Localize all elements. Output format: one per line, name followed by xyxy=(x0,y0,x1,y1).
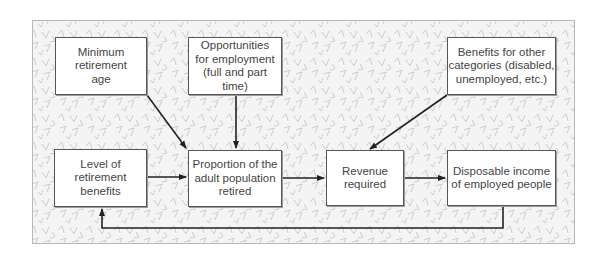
node-label: Disposable income of employed people xyxy=(451,165,551,192)
node-level-retirement-benefits: Level of retirement benefits xyxy=(54,149,147,207)
node-label: Opportunities for employment (full and p… xyxy=(189,39,281,93)
node-label: Benefits for other categories (disabled,… xyxy=(448,46,554,87)
node-label: Minimum retirement age xyxy=(75,46,127,87)
node-opportunities-employment: Opportunities for employment (full and p… xyxy=(188,37,282,95)
node-benefits-other-categories: Benefits for other categories (disabled,… xyxy=(447,37,556,95)
node-disposable-income: Disposable income of employed people xyxy=(447,150,556,206)
node-label: Level of retirement benefits xyxy=(75,158,127,199)
node-proportion-retired: Proportion of the adult population retir… xyxy=(188,150,282,207)
node-label: Proportion of the adult population retir… xyxy=(192,158,277,199)
node-revenue-required: Revenue required xyxy=(326,150,404,206)
node-label: Revenue required xyxy=(342,165,388,192)
node-minimum-retirement-age: Minimum retirement age xyxy=(55,37,147,95)
